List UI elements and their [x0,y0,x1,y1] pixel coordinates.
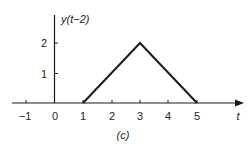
x-tick-label: 5 [194,110,200,122]
figure-caption: (c) [117,129,130,141]
x-tick-label: 1 [80,110,86,122]
x-tick-label: 2 [109,110,115,122]
x-axis-label: t [236,110,240,122]
x-tick-label: 0 [52,110,58,122]
x-tick-label: 4 [165,110,171,122]
x-axis-arrow-icon [235,100,244,107]
triangle-signal-plot: −1 0 1 2 3 4 5 2 1 y(t−2) t (c) [0,0,247,148]
signal-line [83,43,197,103]
x-tick-label: −1 [19,110,32,122]
x-tick-label: 3 [137,110,143,122]
y-tick-label: 2 [41,37,47,49]
y-tick-label: 1 [41,68,47,80]
y-axis-label: y(t−2) [60,13,90,25]
